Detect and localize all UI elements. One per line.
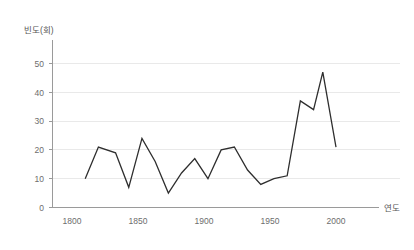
y-tick-label-20: 20	[35, 145, 45, 155]
y-tick-label-30: 30	[35, 116, 45, 126]
x-tick-label-2000: 2000	[327, 216, 346, 226]
x-tick-label-1950: 1950	[261, 216, 280, 226]
chart-container: 50 40 30 20 10 0 1800 1850 1900 1950 200…	[0, 0, 414, 250]
gridlines	[53, 64, 400, 179]
x-tick-label-1900: 1900	[195, 216, 214, 226]
x-tick-label-1850: 1850	[129, 216, 148, 226]
x-tick-label-1800: 1800	[63, 216, 82, 226]
line-chart-svg: 50 40 30 20 10 0 1800 1850 1900 1950 200…	[0, 0, 414, 250]
y-axis-title: 빈도(회)	[24, 25, 54, 35]
y-tick-label-50: 50	[35, 59, 45, 69]
x-tick-labels: 1800 1850 1900 1950 2000	[63, 216, 346, 226]
y-tick-label-0: 0	[39, 203, 44, 213]
y-tick-marks	[49, 64, 53, 208]
data-series-line	[85, 72, 336, 193]
y-tick-label-40: 40	[35, 88, 45, 98]
y-tick-labels: 50 40 30 20 10 0	[35, 59, 45, 213]
x-axis-title: 연도	[384, 203, 400, 213]
y-tick-label-10: 10	[35, 174, 45, 184]
